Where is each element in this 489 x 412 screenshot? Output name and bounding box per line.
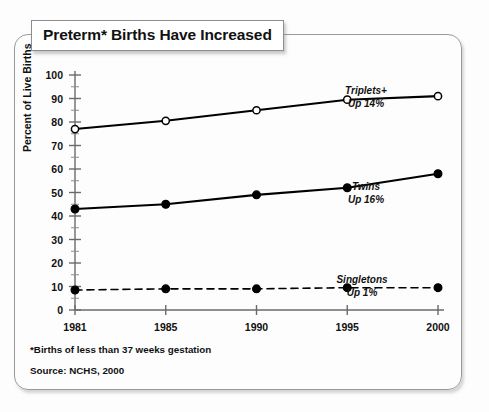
y-tick-label: 10 <box>51 281 63 293</box>
data-point-twins-2000 <box>434 170 442 178</box>
x-tick-label: 1990 <box>245 321 269 333</box>
chart-title-plate: Preterm* Births Have Increased <box>31 20 284 51</box>
footnote-source: Source: NCHS, 2000 <box>30 365 124 376</box>
data-point-triplets--1990 <box>253 107 260 114</box>
plot-area: 0102030405060708090100198119851990199520… <box>14 34 462 390</box>
chart-figure: Preterm* Births Have Increased Percent o… <box>0 0 489 412</box>
x-tick-label: 1985 <box>154 321 178 333</box>
series-annotation-singletons-name: Singletons <box>336 274 388 285</box>
series-annotation-singletons-change: Up 1% <box>347 287 378 298</box>
y-tick-label: 50 <box>51 187 63 199</box>
x-tick-label: 2000 <box>426 321 450 333</box>
y-tick-label: 60 <box>51 163 63 175</box>
x-tick-label: 1995 <box>336 321 360 333</box>
y-tick-label: 70 <box>51 140 63 152</box>
data-point-singletons-1985 <box>162 285 170 293</box>
data-point-singletons-2000 <box>434 284 442 292</box>
data-point-twins-1981 <box>71 205 79 213</box>
line-chart-svg: 0102030405060708090100198119851990199520… <box>14 34 462 390</box>
series-annotation-twins-change: Up 16% <box>348 194 384 205</box>
annotation-group: Triplets+Up 14%TwinsUp 16%SingletonsUp 1… <box>336 85 388 298</box>
data-point-triplets--1981 <box>71 125 78 132</box>
y-tick-label: 30 <box>51 234 63 246</box>
x-tick-label: 1981 <box>63 321 87 333</box>
axes-group: 0102030405060708090100198119851990199520… <box>45 69 449 333</box>
series-annotation-triplets--name: Triplets+ <box>345 85 387 96</box>
data-point-singletons-1990 <box>253 285 261 293</box>
y-tick-label: 80 <box>51 116 63 128</box>
data-point-twins-1985 <box>162 200 170 208</box>
page-title: Preterm* Births Have Increased <box>43 26 272 44</box>
footnote-gestation: *Births of less than 37 weeks gestation <box>30 344 211 355</box>
y-tick-label: 0 <box>57 304 63 316</box>
series-annotation-twins-name: Twins <box>352 181 380 192</box>
y-tick-label: 100 <box>45 69 63 81</box>
data-point-singletons-1981 <box>71 286 79 294</box>
data-point-twins-1990 <box>253 191 261 199</box>
y-tick-label: 90 <box>51 93 63 105</box>
series-annotation-triplets--change: Up 14% <box>348 98 384 109</box>
y-tick-label: 40 <box>51 210 63 222</box>
data-point-twins-1995 <box>343 184 351 192</box>
data-point-triplets--1985 <box>162 117 169 124</box>
series-group <box>71 93 442 294</box>
y-tick-label: 20 <box>51 257 63 269</box>
y-axis-title: Percent of Live Births <box>21 43 33 152</box>
data-point-triplets--2000 <box>434 93 441 100</box>
